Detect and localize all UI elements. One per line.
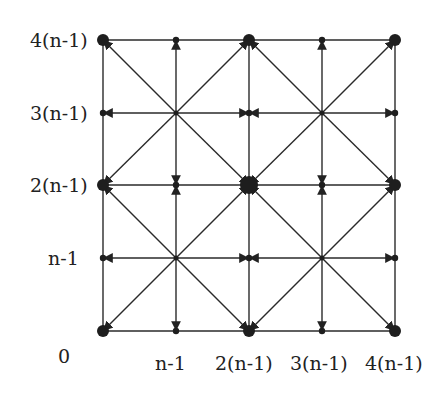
- graph-node: [173, 328, 179, 334]
- x-axis-label-2n-1: 2(n-1): [215, 353, 273, 373]
- x-axis-label-4n-1: 4(n-1): [365, 353, 423, 373]
- graph-edge: [103, 185, 176, 258]
- graph-node: [389, 34, 401, 46]
- graph-node: [174, 256, 179, 261]
- graph-node: [240, 176, 258, 194]
- graph-node: [392, 255, 398, 261]
- graph-node: [246, 110, 252, 116]
- graph-node: [320, 111, 325, 116]
- y-axis-label-4n-1: 4(n-1): [30, 30, 88, 50]
- graph-node: [243, 34, 255, 46]
- graph-node: [320, 256, 325, 261]
- graph-node: [97, 179, 109, 191]
- grid-graph-diagram: [0, 0, 445, 397]
- graph-edge: [176, 185, 249, 258]
- x-axis-label-n-1: n-1: [155, 353, 186, 373]
- x-axis-label-3n-1: 3(n-1): [290, 353, 348, 373]
- graph-edge: [103, 258, 176, 331]
- graph-node: [389, 325, 401, 337]
- graph-node: [97, 325, 109, 337]
- graph-node: [173, 37, 179, 43]
- graph-edge: [322, 185, 395, 258]
- graph-edge: [249, 113, 322, 185]
- graph-edge: [249, 185, 322, 258]
- graph-edge: [176, 113, 249, 185]
- graph-edge: [249, 258, 322, 331]
- graph-node: [246, 255, 252, 261]
- graph-edge: [322, 40, 395, 113]
- graph-edge: [103, 113, 176, 185]
- graph-edge: [103, 40, 176, 113]
- graph-node: [392, 110, 398, 116]
- graph-edge: [322, 113, 395, 185]
- graph-edge: [176, 258, 249, 331]
- graph-node: [100, 255, 106, 261]
- y-axis-label-n-1: n-1: [48, 248, 79, 268]
- y-axis-label-2n-1: 2(n-1): [30, 175, 88, 195]
- graph-edge: [249, 40, 322, 113]
- graph-node: [319, 182, 325, 188]
- y-axis-label-3n-1: 3(n-1): [30, 103, 88, 123]
- graph-node: [100, 110, 106, 116]
- graph-node: [173, 182, 179, 188]
- graph-node: [319, 37, 325, 43]
- origin-label: 0: [58, 346, 70, 366]
- graph-node: [97, 34, 109, 46]
- graph-node: [319, 328, 325, 334]
- graph-node: [243, 325, 255, 337]
- graph-edge: [176, 40, 249, 113]
- graph-edge: [322, 258, 395, 331]
- graph-node: [389, 179, 401, 191]
- graph-node: [174, 111, 179, 116]
